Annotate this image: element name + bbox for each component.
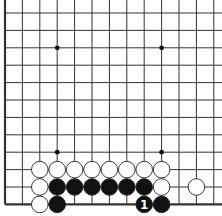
stone-circle (49, 196, 66, 213)
move-number-label: 1 (140, 198, 148, 212)
star-point (55, 150, 60, 155)
white-stone (136, 161, 153, 178)
stone-circle (119, 161, 136, 178)
white-stone (32, 196, 49, 213)
black-stone (101, 179, 118, 196)
stone-circle (66, 161, 83, 178)
star-point (55, 45, 60, 50)
stone-circle (49, 161, 66, 178)
stone-circle (66, 179, 83, 196)
stone-circle (153, 196, 170, 213)
white-stone (84, 161, 101, 178)
stone-circle (153, 179, 170, 196)
black-stone (66, 179, 83, 196)
white-stone (49, 161, 66, 178)
stone-circle (84, 161, 101, 178)
black-stone (153, 196, 170, 213)
black-stone (119, 179, 136, 196)
black-stone: 1 (136, 196, 153, 213)
stone-circle (188, 179, 205, 196)
white-stone (153, 161, 170, 178)
white-stone (188, 179, 205, 196)
stone-circle (119, 179, 136, 196)
stone-circle (153, 161, 170, 178)
black-stone (84, 179, 101, 196)
white-stone (119, 161, 136, 178)
stone-circle (101, 179, 118, 196)
stone-circle (136, 161, 153, 178)
star-point (159, 150, 164, 155)
stone-circle (136, 179, 153, 196)
black-stone (49, 196, 66, 213)
black-stone (49, 179, 66, 196)
go-board[interactable]: 1 (0, 0, 222, 216)
black-stone (136, 179, 153, 196)
white-stone (66, 161, 83, 178)
stone-circle (32, 161, 49, 178)
white-stone (32, 179, 49, 196)
stone-circle (32, 179, 49, 196)
white-stone (153, 179, 170, 196)
star-point (159, 45, 164, 50)
stone-circle (32, 196, 49, 213)
stone-circle (84, 179, 101, 196)
white-stone (32, 161, 49, 178)
stone-circle (101, 161, 118, 178)
stone-circle (49, 179, 66, 196)
white-stone (101, 161, 118, 178)
